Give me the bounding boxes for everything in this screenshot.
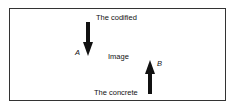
label-a: A xyxy=(75,48,80,57)
label-b: B xyxy=(157,59,162,68)
arrow-up-icon xyxy=(145,60,155,94)
label-concrete: The concrete xyxy=(94,88,138,97)
arrow-down-icon xyxy=(83,22,93,56)
label-codified: The codified xyxy=(96,13,137,22)
label-image: Image xyxy=(108,52,129,61)
